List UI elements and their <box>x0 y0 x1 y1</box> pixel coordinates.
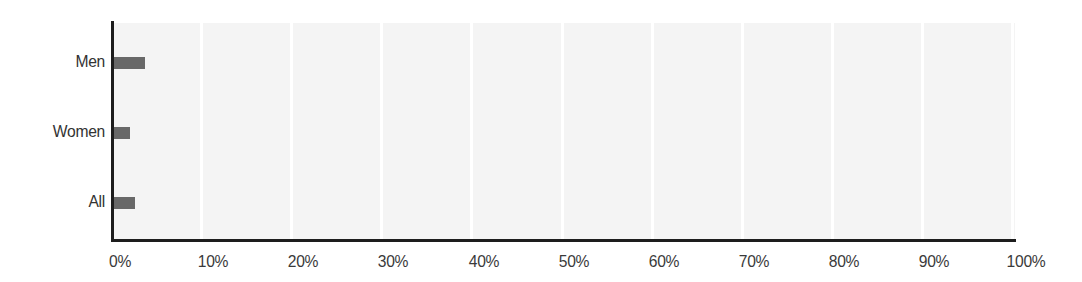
gridline <box>741 23 744 240</box>
bar-men <box>113 57 145 69</box>
gridline <box>561 23 564 240</box>
gridline <box>651 23 654 240</box>
x-tick-label-80: 80% <box>829 252 859 272</box>
bar-all <box>113 197 135 209</box>
gridline <box>831 23 834 240</box>
x-tick-label-100: 100% <box>1007 252 1046 272</box>
y-axis-label-women: Women <box>8 122 105 142</box>
x-tick-label-0: 0% <box>109 252 131 272</box>
x-tick-label-50: 50% <box>559 252 589 272</box>
plot-area <box>113 23 1015 240</box>
gridline <box>290 23 293 240</box>
x-axis-line <box>111 239 1016 242</box>
x-tick-label-40: 40% <box>469 252 499 272</box>
bar-chart: Men Women All 0% 10% 20% 30% 40% 50% 60%… <box>0 0 1082 282</box>
gridline <box>470 23 473 240</box>
gridline <box>1011 23 1014 240</box>
x-tick-label-10: 10% <box>198 252 228 272</box>
y-axis-line <box>111 21 114 242</box>
x-tick-label-70: 70% <box>739 252 769 272</box>
gridline <box>380 23 383 240</box>
x-tick-label-90: 90% <box>919 252 949 272</box>
x-tick-label-60: 60% <box>649 252 679 272</box>
gridline <box>921 23 924 240</box>
gridline <box>200 23 203 240</box>
bar-women <box>113 127 130 139</box>
y-axis-label-all: All <box>8 192 105 212</box>
x-tick-label-20: 20% <box>288 252 318 272</box>
x-tick-label-30: 30% <box>378 252 408 272</box>
y-axis-label-men: Men <box>8 52 105 72</box>
